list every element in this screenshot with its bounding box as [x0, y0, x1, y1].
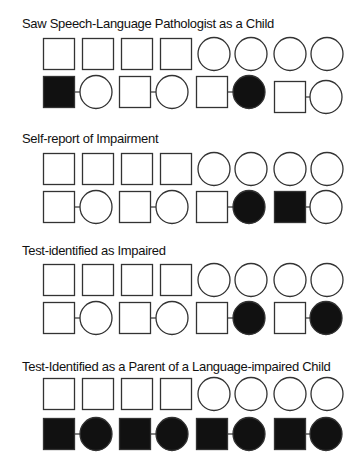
male-square-icon [122, 39, 153, 70]
father-square-icon [197, 303, 228, 334]
male-square-icon [44, 265, 75, 296]
mother-circle-icon [80, 191, 112, 224]
father-square-icon [275, 303, 306, 334]
male-square-icon [83, 379, 114, 410]
father-square-icon [44, 192, 75, 223]
father-square-icon [120, 419, 151, 450]
female-circle-icon [311, 38, 343, 71]
father-square-icon [44, 419, 75, 450]
mother-circle-icon [156, 76, 188, 109]
father-square-icon [197, 77, 228, 108]
father-square-icon [275, 82, 306, 113]
male-square-icon [122, 154, 153, 185]
female-circle-icon [311, 153, 343, 186]
female-circle-icon [198, 153, 230, 186]
male-square-icon [161, 39, 192, 70]
mother-circle-icon [80, 76, 112, 109]
female-circle-icon [235, 264, 267, 297]
father-square-icon [275, 419, 306, 450]
female-circle-icon [274, 378, 306, 411]
female-circle-icon [235, 153, 267, 186]
father-square-icon [197, 419, 228, 450]
female-circle-icon [198, 264, 230, 297]
female-circle-icon [198, 378, 230, 411]
male-square-icon [83, 39, 114, 70]
female-circle-icon [274, 38, 306, 71]
mother-circle-icon [233, 191, 265, 224]
mother-circle-icon [310, 302, 342, 335]
female-circle-icon [274, 264, 306, 297]
mother-circle-icon [156, 302, 188, 335]
father-square-icon [120, 303, 151, 334]
mother-circle-icon [310, 418, 342, 451]
male-square-icon [83, 265, 114, 296]
father-square-icon [120, 192, 151, 223]
mother-circle-icon [156, 418, 188, 451]
female-circle-icon [235, 378, 267, 411]
female-circle-icon [198, 38, 230, 71]
male-square-icon [122, 265, 153, 296]
male-square-icon [161, 265, 192, 296]
male-square-icon [44, 39, 75, 70]
mother-circle-icon [156, 191, 188, 224]
mother-circle-icon [80, 302, 112, 335]
father-square-icon [44, 77, 75, 108]
male-square-icon [44, 379, 75, 410]
mother-circle-icon [233, 418, 265, 451]
mother-circle-icon [233, 302, 265, 335]
mother-circle-icon [80, 418, 112, 451]
father-square-icon [197, 192, 228, 223]
male-square-icon [161, 154, 192, 185]
female-circle-icon [311, 264, 343, 297]
father-square-icon [120, 77, 151, 108]
female-circle-icon [235, 38, 267, 71]
male-square-icon [83, 154, 114, 185]
father-square-icon [275, 192, 306, 223]
male-square-icon [44, 154, 75, 185]
father-square-icon [44, 303, 75, 334]
pedigree-diagram [0, 0, 360, 462]
mother-circle-icon [233, 76, 265, 109]
male-square-icon [161, 379, 192, 410]
female-circle-icon [311, 378, 343, 411]
mother-circle-icon [310, 81, 342, 114]
mother-circle-icon [310, 191, 342, 224]
male-square-icon [122, 379, 153, 410]
female-circle-icon [274, 153, 306, 186]
